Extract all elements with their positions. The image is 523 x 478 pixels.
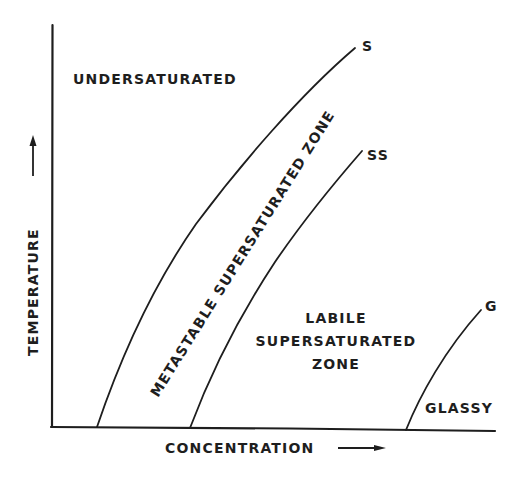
arrow-right-icon: [374, 445, 386, 451]
region-glassy-label: GLASSY: [425, 400, 493, 416]
region-labile-line1: LABILE: [305, 310, 366, 326]
region-labile-line2: SUPERSATURATED: [256, 333, 417, 349]
x-axis: [51, 427, 495, 431]
x-axis-label-group: CONCENTRATION: [165, 440, 386, 456]
crystallization-phase-diagram: TEMPERATURE CONCENTRATION S SS G UNDERSA…: [0, 0, 523, 478]
y-axis-label-group: TEMPERATURE: [25, 135, 41, 356]
region-labile-label: LABILE SUPERSATURATED ZONE: [256, 310, 417, 372]
y-axis-label: TEMPERATURE: [25, 228, 41, 356]
region-labile-line3: ZONE: [312, 356, 360, 372]
arrow-up-icon: [30, 135, 37, 146]
x-axis-label: CONCENTRATION: [165, 440, 315, 456]
curve-s-label: S: [362, 38, 373, 54]
curve-g-label: G: [485, 298, 498, 314]
curve-ss-label: SS: [367, 147, 389, 163]
region-undersaturated-label: UNDERSATURATED: [73, 71, 237, 87]
y-axis: [52, 25, 53, 427]
